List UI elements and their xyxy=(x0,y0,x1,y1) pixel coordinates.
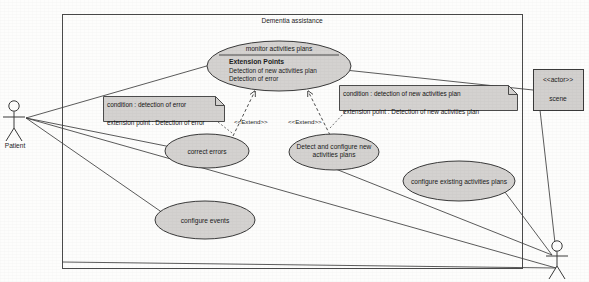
extend-label-correct-errors: <<Extend>> xyxy=(234,118,268,125)
note-error: condition : detection of error extension… xyxy=(107,100,205,119)
use-case-correct-errors-label: correct errors xyxy=(165,148,249,156)
assoc-patient-configure-events xyxy=(26,118,163,213)
actor-patient-label: Patient xyxy=(0,142,30,150)
extension-point-new-activities-plan: Detection of new activities plan xyxy=(229,67,347,74)
system-boundary-label: Dementia assistance xyxy=(62,17,522,25)
use-case-configure-events-label: configure events xyxy=(165,217,245,225)
extension-points-compartment: Extension Points Detection of new activi… xyxy=(229,58,347,81)
actor-scene-stereotype: <<actor>> xyxy=(533,76,583,84)
extend-correct-errors-arrow xyxy=(233,91,255,136)
note-error-leader xyxy=(218,122,232,133)
extension-point-detection-of-error: Detection of error xyxy=(229,75,347,82)
assoc-scene-caregiver xyxy=(540,110,556,252)
extend-arrows xyxy=(233,91,330,136)
note-error-line-extension-point: extension point : Detection of error xyxy=(107,118,205,127)
actor-scene-label: scene xyxy=(533,95,583,103)
diagram-vector-layer xyxy=(0,0,589,282)
extend-label-detect-configure: <<Extend>> xyxy=(288,118,322,125)
note-error-line-condition: condition : detection of error xyxy=(107,100,205,109)
use-case-diagram-canvas: Dementia assistance monitor activities p… xyxy=(0,0,589,282)
note-new-plan-line-extension-point: extension point : Detection of new activ… xyxy=(343,107,479,116)
extension-points-heading: Extension Points xyxy=(229,58,347,66)
use-case-configure-existing-label: configure existing activities plans xyxy=(405,178,513,186)
note-new-plan: condition : detection of new activities … xyxy=(343,89,479,108)
actor-patient-figure[interactable] xyxy=(3,101,25,141)
actor-caregiver-figure[interactable] xyxy=(546,241,568,279)
extend-detect-configure-arrow xyxy=(308,91,330,135)
use-case-monitor-activities-plans-title: monitor activities plans xyxy=(219,45,339,53)
use-case-detect-configure-label: Detect and configure new activities plan… xyxy=(291,143,377,159)
note-new-plan-line-condition: condition : detection of new activities … xyxy=(343,89,479,98)
assoc-bottom-rail xyxy=(62,262,556,268)
